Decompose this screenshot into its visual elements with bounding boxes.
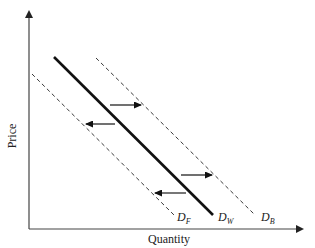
- demand-curve-dw: [54, 57, 213, 215]
- label-dw: DW: [217, 210, 235, 226]
- demand-curve-df: [32, 74, 174, 215]
- label-db: DB: [260, 210, 275, 226]
- label-df: DF: [176, 210, 191, 226]
- demand-shift-diagram: Price Quantity DF DW DB: [0, 0, 315, 248]
- y-axis-label: Price: [5, 124, 19, 149]
- x-axis-label: Quantity: [148, 232, 190, 246]
- demand-curve-db: [96, 58, 255, 215]
